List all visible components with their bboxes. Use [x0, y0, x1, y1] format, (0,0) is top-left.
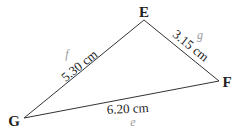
vertex-label-f: F [222, 74, 231, 90]
vertex-label-e: E [139, 4, 149, 20]
side-name-e: e [130, 115, 136, 129]
triangle-diagram: E F G 5.30 cm f 3.15 cm g 6.20 cm e [0, 0, 237, 132]
side-length-gf: 6.20 cm [106, 100, 149, 117]
vertex-label-g: G [8, 113, 20, 129]
side-name-f: f [65, 47, 70, 61]
side-name-g: g [197, 28, 203, 42]
